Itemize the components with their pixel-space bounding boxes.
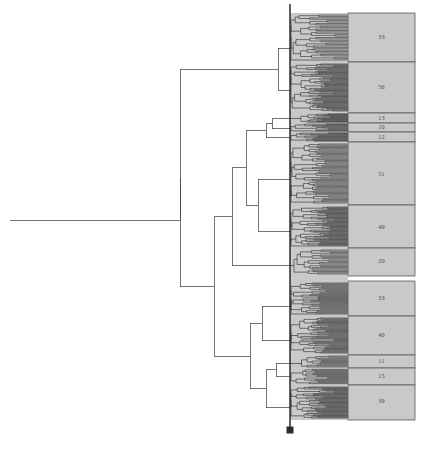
cut-line-marker <box>287 427 294 434</box>
cluster-size-label: 11 <box>378 358 384 364</box>
cluster-size-label: 10 <box>378 124 385 130</box>
dendrogram-canvas <box>0 0 424 456</box>
cluster-size-label: 39 <box>378 398 385 404</box>
cluster-size-label: 33 <box>378 295 385 301</box>
cluster-size-label: 49 <box>378 224 385 230</box>
cluster-size-label: 33 <box>378 34 385 40</box>
cluster-blocks <box>290 13 415 420</box>
cluster-size-label: 40 <box>378 332 385 338</box>
cluster-size-label: 15 <box>378 373 385 379</box>
cluster-size-label: 12 <box>378 134 385 140</box>
cluster-size-label: 13 <box>378 115 385 121</box>
dendrogram-tree <box>10 48 302 407</box>
cluster-size-label: 20 <box>378 258 385 264</box>
cluster-size-label: 56 <box>378 84 385 90</box>
cluster-size-label: 51 <box>378 171 385 177</box>
dendrogram-figure: 33561310125149203340111539 <box>0 0 424 456</box>
